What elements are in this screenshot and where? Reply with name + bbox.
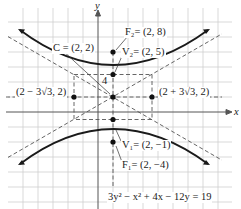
asymptotes <box>6 34 222 187</box>
x-axis-arrow-icon <box>226 110 232 115</box>
point-v2 <box>110 72 115 77</box>
point-left <box>71 94 76 99</box>
leader-lines <box>62 36 128 162</box>
hyperbola-plot <box>0 0 241 209</box>
label-f2: F₂= (2, 8) <box>124 27 167 38</box>
label-v1: V₁= (2, −1) <box>121 140 171 151</box>
equation-label: 3y² − x² + 4x − 12y = 19 <box>107 192 212 203</box>
label-center: C = (2, 2) <box>52 43 95 54</box>
x-axis-label: x <box>233 107 240 118</box>
point-center <box>110 94 115 99</box>
label-left-vertex: (2 − 3√3, 2) <box>15 87 67 98</box>
y-axis-label: y <box>94 1 101 12</box>
point-f1 <box>110 139 115 144</box>
grid <box>8 8 232 209</box>
point-right <box>149 94 154 99</box>
point-v1 <box>110 117 115 122</box>
point-f2 <box>110 49 115 54</box>
label-f1: F₁= (2, −4) <box>121 160 170 171</box>
label-right-vertex: (2 + 3√3, 2) <box>158 87 210 98</box>
axes <box>6 10 232 209</box>
label-v2: V₂= (2, 5) <box>121 47 166 58</box>
scale-label: 4 <box>101 76 108 87</box>
